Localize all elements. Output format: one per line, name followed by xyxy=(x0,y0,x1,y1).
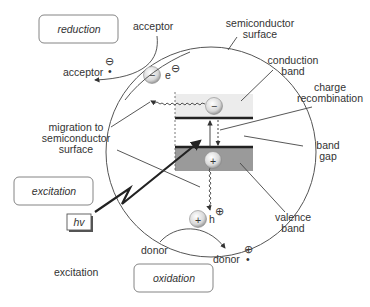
electron-ball-band-sign: − xyxy=(211,100,217,112)
oxidation-box-label: oxidation xyxy=(153,272,195,284)
migration-label-3: surface xyxy=(59,143,94,155)
photocatalysis-diagram: − − e ⊖ + + h ⊕ reduction excitation oxi… xyxy=(0,0,370,307)
donor-left-label: donor xyxy=(141,244,168,256)
acceptor-left-label: acceptor xyxy=(63,66,104,78)
leader-band-gap xyxy=(244,136,303,146)
electron-charge: ⊖ xyxy=(171,62,180,74)
hole-charge: ⊕ xyxy=(215,205,224,217)
photon-box-label: hv xyxy=(73,216,85,228)
donor-dot: • xyxy=(246,253,250,265)
recombination-label-2: recombination xyxy=(297,92,363,104)
conduction-label-2: band xyxy=(281,65,305,77)
hole-ball-band-sign: + xyxy=(210,155,216,167)
leader-valence xyxy=(240,163,285,212)
valence-label-2: band xyxy=(281,222,305,234)
hole-ball-surface-sign: + xyxy=(195,214,201,226)
excitation-box-label: excitation xyxy=(32,185,77,197)
leader-conduction xyxy=(241,70,273,101)
acceptor-dot: • xyxy=(108,65,112,77)
hole-migration-path xyxy=(209,168,211,210)
donor-reaction-curve xyxy=(160,229,225,248)
acceptor-top-label: acceptor xyxy=(133,20,174,32)
donor-right-label: donor xyxy=(213,253,240,265)
leader-surface xyxy=(228,37,237,50)
reduction-box-label: reduction xyxy=(57,23,100,35)
surface-label-2: surface xyxy=(243,28,278,40)
band-gap-label-2: gap xyxy=(319,150,337,162)
excitation-plain-label: excitation xyxy=(54,266,99,278)
